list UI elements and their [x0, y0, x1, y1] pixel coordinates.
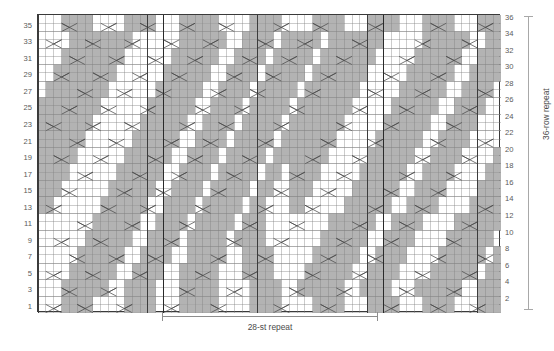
chart-page: 3533312927252321191715131197531 36343230… [0, 0, 554, 351]
row-number-left-5: 5 [28, 270, 32, 278]
row-number-left-7: 7 [28, 253, 32, 261]
row-number-right-20: 20 [505, 146, 513, 154]
row-number-right-24: 24 [505, 113, 513, 121]
row-number-left-15: 15 [24, 187, 32, 195]
row-number-left-25: 25 [24, 104, 32, 112]
row-number-right-36: 36 [505, 14, 513, 22]
row-number-left-3: 3 [28, 286, 32, 294]
row-number-right-2: 2 [505, 295, 509, 303]
chart-canvas [38, 15, 501, 313]
row-repeat-label: 36-row repeat [541, 88, 551, 140]
row-number-right-12: 12 [505, 212, 513, 220]
row-number-left-13: 13 [24, 204, 32, 212]
row-number-right-14: 14 [505, 195, 513, 203]
row-number-left-9: 9 [28, 237, 32, 245]
row-number-left-11: 11 [24, 220, 32, 228]
row-repeat-bracket [528, 16, 529, 310]
row-number-left-29: 29 [24, 71, 32, 79]
row-number-right-4: 4 [505, 278, 509, 286]
row-number-right-30: 30 [505, 63, 513, 71]
row-number-left-27: 27 [24, 88, 32, 96]
row-number-left-33: 33 [24, 38, 32, 46]
row-number-right-34: 34 [505, 30, 513, 38]
row-number-left-23: 23 [24, 121, 32, 129]
row-number-right-10: 10 [505, 229, 513, 237]
row-number-right-8: 8 [505, 245, 509, 253]
row-number-left-31: 31 [24, 55, 32, 63]
knitting-chart-grid[interactable] [37, 14, 500, 312]
row-number-right-26: 26 [505, 96, 513, 104]
row-number-left-19: 19 [24, 154, 32, 162]
row-number-right-32: 32 [505, 47, 513, 55]
row-number-left-17: 17 [24, 171, 32, 179]
row-number-left-21: 21 [24, 138, 32, 146]
row-number-right-18: 18 [505, 162, 513, 170]
row-number-left-1: 1 [28, 303, 32, 311]
row-number-right-22: 22 [505, 129, 513, 137]
stitch-repeat-label: 28-st repeat [162, 322, 378, 332]
row-number-left-35: 35 [24, 22, 32, 30]
row-number-right-28: 28 [505, 80, 513, 88]
row-number-right-6: 6 [505, 262, 509, 270]
row-number-right-16: 16 [505, 179, 513, 187]
row-numbers-left: 3533312927252321191715131197531 [8, 14, 34, 312]
stitch-repeat-bracket [162, 316, 378, 317]
row-numbers-right: 36343230282624222018161412108642 [502, 14, 526, 312]
